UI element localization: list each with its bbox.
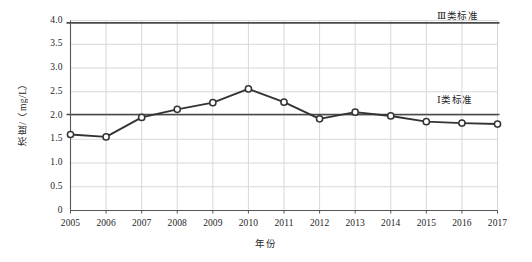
data-point-marker (281, 99, 287, 105)
data-point-marker (103, 134, 109, 140)
data-point-marker (139, 114, 145, 120)
y-axis-tick-label: 0.5 (31, 182, 63, 192)
data-point-marker (174, 106, 180, 112)
x-axis-tick-label: 2017 (478, 219, 518, 229)
x-axis-tick-label: 2008 (157, 219, 197, 229)
x-axis-tick-label: 2007 (122, 219, 162, 229)
data-point-marker (210, 100, 216, 106)
class-3-standard-label: Ⅲ类标准 (437, 8, 478, 22)
x-axis-title: 年份 (0, 236, 532, 250)
y-axis-tick-label: 2.0 (31, 111, 63, 121)
data-point-marker (494, 121, 500, 127)
y-axis-tick-label: 0 (31, 206, 63, 216)
data-point-marker (316, 116, 322, 122)
data-point-marker (352, 109, 358, 115)
y-axis-tick-label: 1.5 (31, 134, 63, 144)
y-axis-tick-label: 1.0 (31, 158, 63, 168)
data-point-marker (459, 120, 465, 126)
x-axis-tick-label: 2012 (300, 219, 340, 229)
data-point-marker (388, 113, 394, 119)
data-point-marker (423, 119, 429, 125)
y-axis-tick-label: 3.0 (31, 63, 63, 73)
y-axis-tick-label: 2.5 (31, 87, 63, 97)
grid-layer (71, 21, 498, 211)
x-axis-tick-label: 2016 (442, 219, 482, 229)
y-axis-tick-label: 4.0 (31, 16, 63, 26)
y-axis-title: 浓度/（mg/L） (16, 78, 30, 146)
data-point-marker (67, 131, 73, 137)
x-axis-tick-label: 2014 (371, 219, 411, 229)
x-axis-tick-label: 2013 (335, 219, 375, 229)
data-point-marker (245, 86, 251, 92)
x-axis-tick-label: 2011 (264, 219, 304, 229)
x-axis-tick-label: 2005 (51, 219, 91, 229)
x-axis-tick-label: 2006 (86, 219, 126, 229)
y-axis-tick-label: 3.5 (31, 39, 63, 49)
x-axis-tick-label: 2015 (406, 219, 446, 229)
x-axis-tick-label: 2010 (228, 219, 268, 229)
x-axis-tick-label: 2009 (193, 219, 233, 229)
class-1-standard-label: Ⅰ类标准 (437, 92, 473, 106)
line-chart: 00.51.01.52.02.53.03.54.0 20052006200720… (0, 0, 532, 262)
